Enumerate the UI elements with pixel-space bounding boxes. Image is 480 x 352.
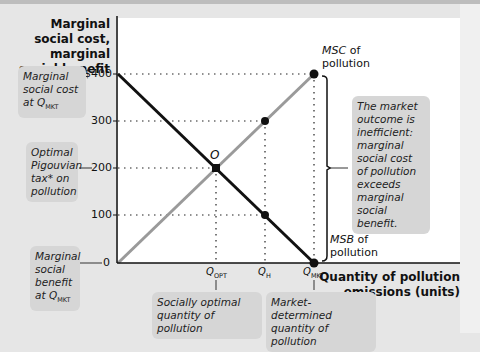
note-market-determined: Market-determined quantity of pollution [266,292,376,352]
y-tick-100: 100 [72,208,112,221]
x-tick-q-opt: QOPT [206,266,227,280]
note-inefficient: The market outcome is inefficient: margi… [352,96,430,234]
x-tick-q-h: QH [258,266,271,280]
inefficiency-bracket [322,76,330,261]
point-o-label: O [210,148,219,162]
note-msb-at-qmkt: Marginal social benefit at QMKT [30,246,80,311]
note-msc-at-qmkt: Marginal social cost at QMKT [18,66,86,118]
note-pigouvian-tax: Optimal Pigouvian tax* on pollution [26,142,78,202]
msb-curve-label: MSB of pollution [330,233,390,259]
msc-curve-label: MSC of pollution [322,44,382,70]
chart-points [212,70,319,268]
note-socially-optimal: Socially optimal quantity of pollution [152,292,262,339]
